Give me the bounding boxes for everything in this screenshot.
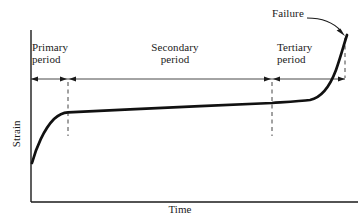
failure-arrowhead — [337, 28, 345, 36]
stage-label-primary: Primary period — [32, 42, 96, 65]
failure-annotation-label: Failure — [272, 8, 332, 20]
arrowhead-tertiary-right — [338, 76, 345, 81]
arrowhead-tertiary-left — [273, 76, 280, 81]
stage-label-tertiary: Tertiary period — [277, 42, 337, 65]
y-axis-label: Strain — [11, 108, 23, 160]
arrowhead-primary-left — [31, 76, 38, 81]
failure-leader-line — [307, 18, 341, 31]
arrowhead-secondary-right — [264, 76, 271, 81]
arrowhead-secondary-left — [69, 76, 76, 81]
stage-label-secondary: Secondary period — [125, 42, 225, 65]
creep-curve-figure: Primary period Secondary period Tertiary… — [0, 0, 364, 222]
x-axis-label: Time — [150, 204, 210, 216]
creep-curve-plot — [0, 0, 364, 222]
arrowhead-primary-right — [60, 76, 67, 81]
